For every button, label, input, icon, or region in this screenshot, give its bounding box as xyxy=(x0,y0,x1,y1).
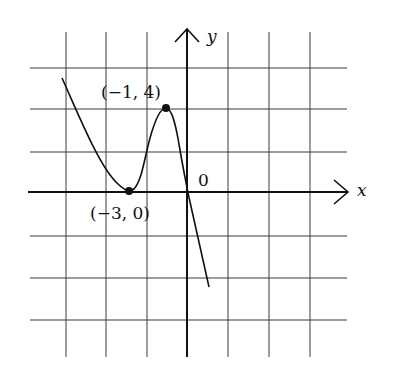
x-axis-label: x xyxy=(357,180,367,200)
point-max-label: (−1, 4) xyxy=(101,82,161,102)
y-axis-label: y xyxy=(206,26,217,46)
point-min-label: (−3, 0) xyxy=(90,203,150,223)
function-graph: y x 0 (−1, 4) (−3, 0) xyxy=(0,0,393,374)
point-min-marker xyxy=(125,187,133,195)
point-max-marker xyxy=(162,104,170,112)
origin-label: 0 xyxy=(198,170,209,190)
